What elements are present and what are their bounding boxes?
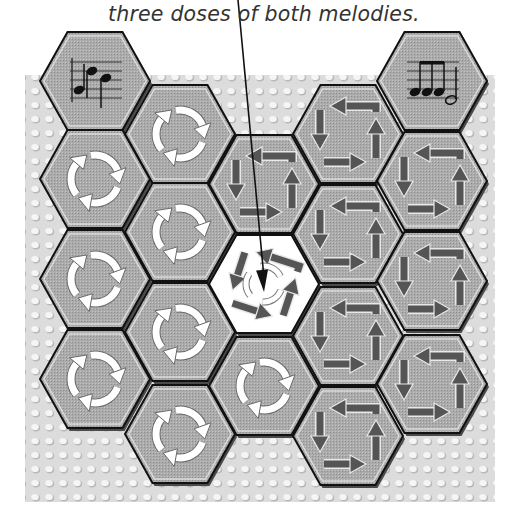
caption-text: three doses of both melodies. xyxy=(108,2,420,26)
hex-board-diagram: three doses of both melodies. xyxy=(0,0,507,532)
caption: three doses of both melodies. xyxy=(0,0,507,40)
hex-board xyxy=(0,0,507,532)
